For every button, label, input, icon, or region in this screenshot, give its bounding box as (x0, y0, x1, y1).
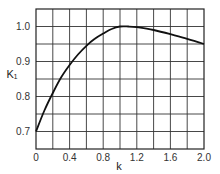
x-tick-label: 2.0 (197, 152, 211, 163)
y-tick-label: 0.8 (16, 91, 30, 102)
y-axis-ticks: 0.70.80.91.0 (16, 21, 30, 137)
x-tick-label: 0.4 (63, 152, 77, 163)
y-tick-label: 0.9 (16, 56, 30, 67)
k1-vs-k-chart: 00.40.81.21.62.0 0.70.80.91.0 k K₁ (0, 0, 220, 174)
y-tick-label: 1.0 (16, 21, 30, 32)
x-axis-label: k (116, 160, 122, 172)
x-axis-ticks: 00.40.81.21.62.0 (33, 152, 211, 163)
x-tick-label: 1.2 (130, 152, 144, 163)
x-tick-label: 0.8 (96, 152, 110, 163)
y-tick-label: 0.7 (16, 126, 30, 137)
x-tick-label: 0 (33, 152, 39, 163)
x-tick-label: 1.6 (163, 152, 177, 163)
y-axis-label: K₁ (6, 68, 17, 80)
